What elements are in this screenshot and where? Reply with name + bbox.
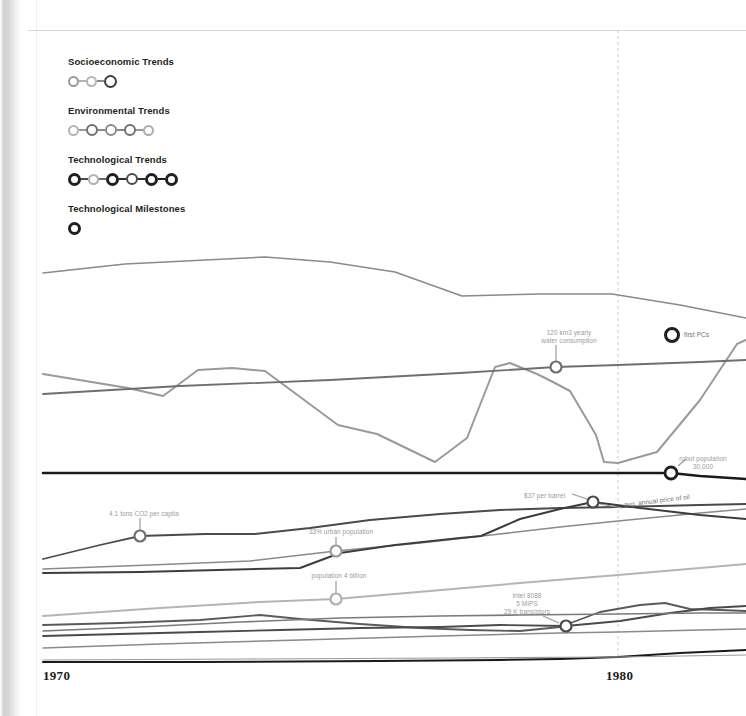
annotation-label-world-population: population 4 billion: [296, 572, 382, 580]
series-line-robot-population: [43, 473, 746, 479]
axis-tick-label-1980: 1980: [606, 668, 633, 684]
annotation-label-robot-population: robot population 30,000: [660, 455, 746, 471]
axis-tick-label-1970: 1970: [43, 668, 70, 684]
annotation-label-urban-population: 33% urban population: [295, 528, 387, 536]
milestone-marker-co2-per-capita[interactable]: [135, 531, 146, 542]
annotation-leader-line: [543, 616, 559, 623]
series-line-water-consumption-zigzag: [43, 340, 746, 463]
annotation-stems: [140, 345, 686, 623]
series-line-lower-thin-line: [43, 629, 746, 648]
milestone-marker-first-pcs[interactable]: [666, 329, 679, 342]
annotation-label-price-per-barrel: $37 per barrel: [524, 492, 590, 500]
annotation-label-first-pcs: first PCs: [684, 331, 744, 339]
milestone-marker-world-population[interactable]: [331, 594, 342, 605]
milestone-marker-intel-8088[interactable]: [561, 621, 572, 632]
infographic-page: Socioeconomic TrendsEnvironmental Trends…: [0, 0, 746, 716]
series-line-mid-grey-baseline: [43, 360, 746, 394]
annotation-label-co2-per-capita: 4.1 tons CO2 per capita: [95, 510, 193, 518]
series-line-upper-grey-trend: [43, 257, 746, 318]
milestone-marker-water-consumption[interactable]: [551, 362, 562, 373]
series-layer: [43, 257, 746, 662]
milestone-marker-urban-population[interactable]: [331, 546, 342, 557]
trends-line-chart: [0, 0, 746, 716]
annotation-label-water-consumption: 120 km3 yearly water consumption: [520, 329, 618, 345]
series-line-baseline-black: [43, 650, 746, 662]
annotation-label-intel-8088: Intel 8088 5 MIPS 29 K transistors: [487, 592, 567, 616]
milestone-markers: [135, 329, 679, 632]
